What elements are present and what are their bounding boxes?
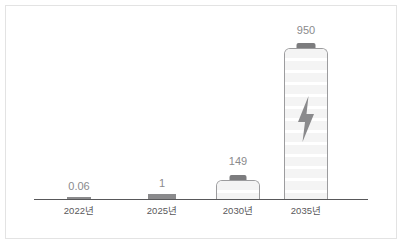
bar-2030[interactable] bbox=[216, 0, 260, 199]
bar-2025[interactable] bbox=[139, 0, 185, 199]
category-group-2022: 0.06 2022년 bbox=[34, 0, 124, 246]
bar-slab-2022 bbox=[67, 197, 91, 200]
battery-bar-chart: 0.06 2022년 1 2025년 149 2030년 bbox=[0, 0, 404, 246]
bar-slab-2025 bbox=[148, 194, 176, 199]
lightning-bolt-icon bbox=[295, 96, 317, 146]
x-tick-label-2022: 2022년 bbox=[34, 203, 124, 217]
category-group-2035: 950 2035년 bbox=[261, 0, 351, 246]
x-tick-label-2035: 2035년 bbox=[261, 203, 351, 217]
bar-2022[interactable] bbox=[56, 0, 102, 199]
bar-2035[interactable] bbox=[284, 0, 328, 199]
battery-body-2030 bbox=[216, 180, 260, 199]
plot-area: 0.06 2022년 1 2025년 149 2030년 bbox=[0, 0, 404, 246]
battery-segments-2030 bbox=[217, 181, 259, 199]
